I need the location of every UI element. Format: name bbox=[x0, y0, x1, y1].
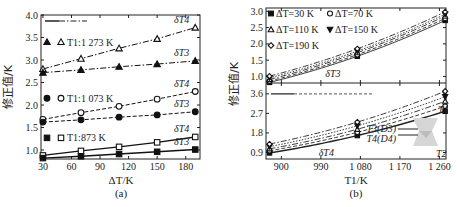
legend-label: ΔT=190 K bbox=[276, 40, 320, 51]
x-tick-label: 1 260 bbox=[428, 161, 451, 172]
series-annotation: δT3 bbox=[174, 98, 189, 109]
marker-filled-circle bbox=[44, 95, 50, 101]
marker-open-circle bbox=[116, 103, 122, 109]
series-annotation: δT4 bbox=[319, 147, 334, 158]
y-tick-label: 2.5 bbox=[251, 22, 264, 33]
x-tick-label: 900 bbox=[274, 161, 289, 172]
legend-label: T1:1 273 K bbox=[67, 37, 114, 48]
y-tick-label: 1.8 bbox=[251, 127, 264, 138]
marker-filled-square bbox=[154, 149, 159, 154]
panel-b-caption: (b) bbox=[350, 187, 363, 200]
marker-filled-square bbox=[44, 135, 49, 140]
y-tick-label: 3.5 bbox=[26, 32, 39, 43]
legend-label: ΔT=110 K bbox=[276, 24, 319, 35]
marker-filled-circle bbox=[192, 109, 198, 115]
marker-filled-triangle bbox=[192, 58, 198, 64]
marker-filled-square bbox=[40, 155, 45, 160]
marker-open-triangle bbox=[192, 24, 198, 30]
inset-label-t1: T1 bbox=[438, 104, 449, 115]
marker-filled-down-triangle bbox=[443, 95, 448, 100]
series-annotation: δT3 bbox=[325, 68, 340, 79]
panel-a-caption: (a) bbox=[115, 187, 128, 200]
marker-open-square bbox=[116, 144, 121, 149]
y-axis-label: 修正值/K bbox=[227, 61, 241, 106]
series-annotation: δT3 bbox=[174, 136, 189, 147]
y-tick-label: 1.0 bbox=[251, 71, 264, 82]
x-axis-label: ΔT/K bbox=[109, 174, 134, 186]
legend-label: T1:1 073 K bbox=[67, 93, 114, 104]
legend-label: ΔT=150 K bbox=[335, 24, 379, 35]
marker-open-circle bbox=[327, 11, 332, 16]
y-tick-label: 2.5 bbox=[26, 77, 39, 88]
marker-open-triangle bbox=[58, 39, 64, 45]
marker-filled-triangle bbox=[116, 64, 122, 70]
marker-filled-down-triangle bbox=[327, 27, 333, 32]
marker-filled-circle bbox=[78, 117, 84, 123]
series-annotation: δT3 bbox=[174, 47, 189, 58]
y-axis-label: 修正值/K bbox=[1, 64, 15, 109]
series-annotation: δT4 bbox=[174, 78, 189, 89]
y-tick-label: 2.7 bbox=[251, 108, 264, 119]
x-tick-label: 30 bbox=[38, 161, 48, 172]
marker-open-square bbox=[58, 135, 63, 140]
y-tick-label: 1.5 bbox=[26, 122, 39, 133]
panel-a-chart: 3060901201501801.01.52.02.53.03.54.0ΔT/K… bbox=[1, 10, 200, 187]
marker-filled-square bbox=[116, 151, 121, 156]
marker-open-diamond bbox=[443, 89, 448, 94]
series-annotation: δT4 bbox=[174, 123, 189, 134]
marker-filled-circle bbox=[116, 114, 122, 120]
figure: 3060901201501801.01.52.02.53.03.54.0ΔT/K… bbox=[0, 0, 457, 207]
y-tick-label: 3.6 bbox=[251, 88, 264, 99]
y-tick-label: 3.0 bbox=[251, 6, 264, 17]
sample-inset-graphic bbox=[398, 118, 438, 146]
x-tick-label: 1 170 bbox=[389, 161, 412, 172]
marker-open-triangle bbox=[268, 27, 274, 32]
y-tick-label: 4.0 bbox=[26, 10, 39, 21]
legend-label: ΔT=70 K bbox=[335, 8, 374, 19]
marker-open-circle bbox=[58, 95, 64, 101]
y-tick-label: 3.0 bbox=[26, 55, 39, 66]
marker-filled-triangle bbox=[44, 39, 50, 45]
y-tick-label: 1.5 bbox=[251, 55, 264, 66]
panel-b-chart: 9009901 0801 1701 2601.01.52.02.53.00.91… bbox=[227, 6, 451, 186]
x-tick-label: 1 080 bbox=[349, 161, 372, 172]
marker-open-diamond bbox=[268, 43, 274, 49]
marker-open-triangle bbox=[78, 55, 84, 61]
marker-open-circle bbox=[154, 96, 160, 102]
marker-open-square bbox=[193, 134, 198, 139]
x-tick-label: 90 bbox=[95, 161, 105, 172]
inset-label-t4: T4(D4) bbox=[367, 133, 397, 145]
x-axis-label: T1/K bbox=[344, 174, 367, 186]
legend-label: ΔT=30 K bbox=[276, 8, 315, 19]
marker-open-square bbox=[78, 148, 83, 153]
marker-open-square bbox=[154, 140, 159, 145]
x-tick-label: 990 bbox=[313, 161, 328, 172]
marker-filled-circle bbox=[40, 119, 46, 125]
x-tick-label: 60 bbox=[66, 161, 76, 172]
marker-open-circle bbox=[78, 110, 84, 116]
legend-label: T1:873 K bbox=[67, 132, 106, 143]
y-tick-label: 0.9 bbox=[251, 147, 264, 158]
x-tick-label: 150 bbox=[150, 161, 165, 172]
x-tick-label: 120 bbox=[121, 161, 136, 172]
inset-label-t2: T2 bbox=[436, 148, 447, 159]
marker-open-circle bbox=[192, 89, 198, 95]
y-tick-label: 2.0 bbox=[26, 100, 39, 111]
y-tick-label: 2.0 bbox=[251, 38, 264, 49]
marker-filled-square bbox=[269, 11, 274, 16]
x-tick-label: 180 bbox=[178, 161, 193, 172]
marker-filled-square bbox=[193, 147, 198, 152]
marker-filled-square bbox=[78, 154, 83, 159]
y-tick-label: 1.0 bbox=[26, 145, 39, 156]
marker-filled-circle bbox=[154, 112, 160, 118]
series-annotation: δT4 bbox=[174, 14, 189, 25]
